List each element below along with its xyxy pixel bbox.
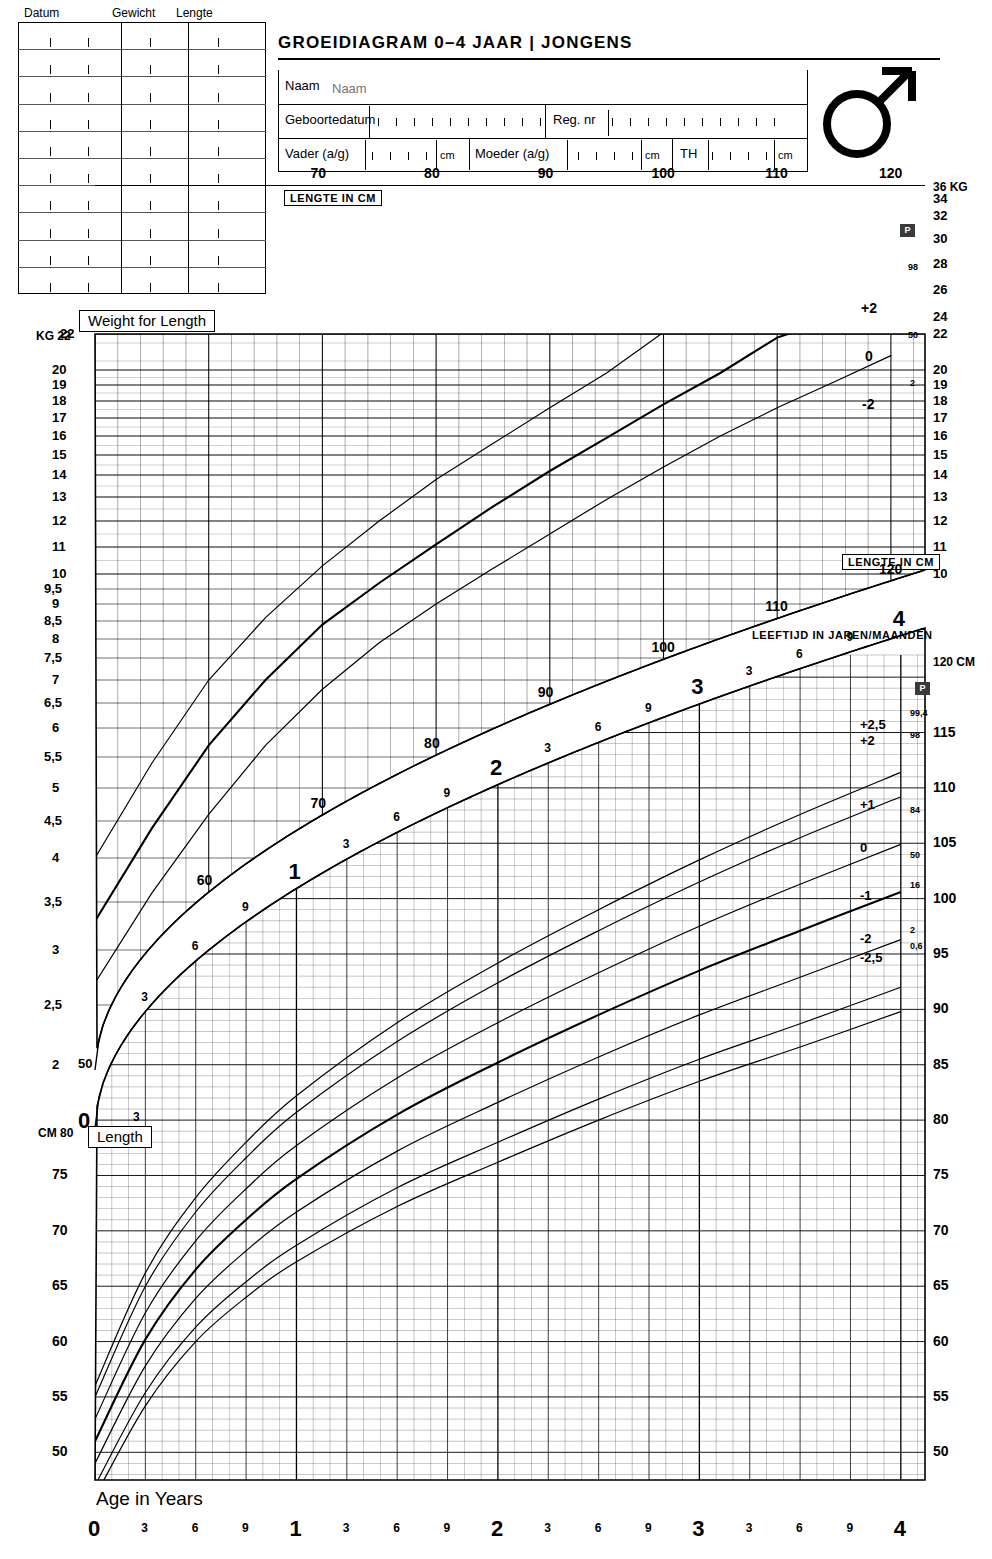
age-xtick: 9 <box>444 1521 451 1535</box>
weight-ytick-right: 10 <box>933 566 947 581</box>
age-xtick: 3 <box>544 1521 551 1535</box>
length-ytick-right: 55 <box>933 1388 949 1404</box>
age-xtick: 0 <box>88 1516 100 1542</box>
length-ytick-left: 55 <box>52 1388 68 1404</box>
age-band-mark: 3 <box>544 741 551 755</box>
age-band-start-3: 3 <box>133 1110 140 1124</box>
weight-ytick-right: 17 <box>933 410 947 425</box>
age-xtick: 3 <box>141 1521 148 1535</box>
weight-ytick-left: 3,5 <box>44 894 62 909</box>
length-sd-label: +1 <box>860 797 875 812</box>
length-ytick-right: 90 <box>933 1000 949 1016</box>
age-band-mark: 3 <box>746 664 753 678</box>
weight-ytick-right: 16 <box>933 428 947 443</box>
age-band-mark: 9 <box>645 701 652 715</box>
weight-ytick-right: 32 <box>933 208 947 223</box>
age-xtick: 9 <box>242 1521 249 1535</box>
age-band-mark: 9 <box>846 630 853 644</box>
length-percentile-label: 2 <box>910 925 915 935</box>
weight-ytick-right: 20 <box>933 362 947 377</box>
weight-percentile-label: 2 <box>910 378 915 388</box>
age-xtick: 9 <box>645 1521 652 1535</box>
length-ytick-right: 75 <box>933 1166 949 1182</box>
weight-ytick-right: 28 <box>933 256 947 271</box>
weight-ytick-left: 22 <box>60 326 74 341</box>
weight-ytick-right: 11 <box>933 539 947 554</box>
length-percentile-label: 50 <box>910 850 920 860</box>
age-band-mark: 4 <box>893 606 905 632</box>
weight-ytick-left: 3 <box>52 942 59 957</box>
length-ytick-right: 60 <box>933 1333 949 1349</box>
length-ytick-left: 50 <box>52 1443 68 1459</box>
length-ytick-left: 65 <box>52 1277 68 1293</box>
weight-for-length-title: Weight for Length <box>79 310 215 332</box>
weight-ytick-left: 20 <box>52 362 66 377</box>
weight-xtick-top: 80 <box>424 165 440 181</box>
weight-ytick-left: 8 <box>52 631 59 646</box>
length-sd-label: +2 <box>860 733 875 748</box>
length-ytick-left: 60 <box>52 1333 68 1349</box>
age-xtick: 3 <box>343 1521 350 1535</box>
age-band-mark: 6 <box>595 720 602 734</box>
length-ytick-right: 115 <box>933 724 956 740</box>
weight-ytick-left: 11 <box>52 539 66 554</box>
length-band-mark: 70 <box>310 795 326 811</box>
length-ytick-right: 80 <box>933 1111 949 1127</box>
weight-xtick-top: 100 <box>651 165 674 181</box>
weight-ytick-left: 4,5 <box>44 813 62 828</box>
length-ytick-left: 75 <box>52 1166 68 1182</box>
weight-ytick-left: 6,5 <box>44 695 62 710</box>
weight-top-axis-rule <box>95 185 925 186</box>
weight-ytick-right: 19 <box>933 377 947 392</box>
weight-ytick-left: 14 <box>52 467 66 482</box>
weight-percentile-label: 50 <box>908 330 918 340</box>
weight-xstart-label: 50 <box>78 1056 92 1071</box>
age-band-start-0: 0 <box>78 1108 90 1134</box>
weight-ytick-left: 5,5 <box>44 749 62 764</box>
weight-sd-label: 0 <box>865 348 873 364</box>
length-band-mark: 120 <box>879 561 902 577</box>
weight-ytick-left: 2,5 <box>44 997 62 1012</box>
lengte-in-cm-label-top: LENGTE IN CM <box>284 190 382 206</box>
weight-ytick-left: 6 <box>52 720 59 735</box>
weight-ytick-left: 15 <box>52 447 66 462</box>
age-xtick: 6 <box>192 1521 199 1535</box>
weight-ytick-left: 10 <box>52 566 66 581</box>
weight-ytick-left: 9 <box>52 596 59 611</box>
weight-xtick-top: 120 <box>879 165 902 181</box>
length-ytick-right: 65 <box>933 1277 949 1293</box>
length-ytick-right: 110 <box>933 779 956 795</box>
length-band-mark: 60 <box>197 872 213 888</box>
weight-ytick-left: 7 <box>52 672 59 687</box>
weight-ytick-left: 9,5 <box>44 581 62 596</box>
age-xtick: 6 <box>393 1521 400 1535</box>
weight-xtick-top: 90 <box>538 165 554 181</box>
weight-ytick-right: 18 <box>933 393 947 408</box>
length-sd-label: 0 <box>860 840 867 855</box>
age-band-mark: 9 <box>444 786 451 800</box>
weight-ytick-left: 19 <box>52 377 66 392</box>
age-xtick: 3 <box>746 1521 753 1535</box>
length-band-mark: 100 <box>651 639 674 655</box>
length-ytick-right: 50 <box>933 1443 949 1459</box>
length-ytick-right: 85 <box>933 1056 949 1072</box>
length-ytick-right: 100 <box>933 890 956 906</box>
length-ytick-left: 70 <box>52 1222 68 1238</box>
weight-ytick-right: 22 <box>933 326 947 341</box>
age-xtick: 1 <box>289 1516 301 1542</box>
length-sd-label: -2 <box>860 931 872 946</box>
length-sd-label: -2,5 <box>860 950 882 965</box>
length-percentile-label: 0,6 <box>910 941 923 951</box>
length-title: Length <box>88 1126 152 1148</box>
cm-120-right-label: 120 CM <box>933 655 975 669</box>
age-xtick: 9 <box>846 1521 853 1535</box>
age-band-mark: 2 <box>490 755 502 781</box>
weight-percentile-label: 98 <box>908 262 918 272</box>
weight-ytick-right: 15 <box>933 447 947 462</box>
age-in-years-title: Age in Years <box>88 1489 211 1509</box>
weight-ytick-right: 14 <box>933 467 947 482</box>
weight-xtick-top: 110 <box>765 165 788 181</box>
weight-ytick-left: 5 <box>52 780 59 795</box>
age-band-mark: 9 <box>242 900 249 914</box>
length-sd-label: -1 <box>860 888 872 903</box>
